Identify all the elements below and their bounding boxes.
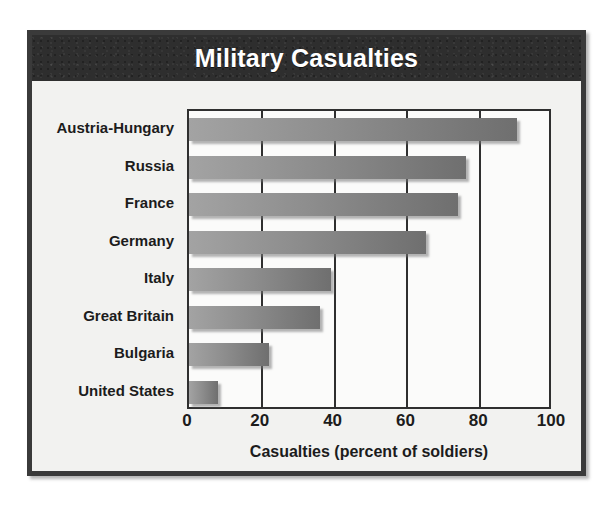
bar [189, 231, 426, 254]
bar [189, 306, 320, 329]
bar-row [189, 224, 549, 262]
x-tick-label: 40 [323, 411, 342, 431]
category-label: Russia [125, 147, 174, 185]
category-label: Austria-Hungary [56, 109, 174, 147]
bar [189, 193, 458, 216]
bar-row [189, 111, 549, 149]
x-tick-label: 80 [469, 411, 488, 431]
x-tick-label: 20 [250, 411, 269, 431]
x-tick-label: 100 [537, 411, 565, 431]
bar-row [189, 374, 549, 412]
chart-title-bar: Military Casualties [32, 35, 581, 81]
category-label: Italy [144, 259, 174, 297]
category-label: Bulgaria [114, 334, 174, 372]
plot-area [187, 109, 551, 409]
page-title: Military Casualties [195, 44, 418, 73]
category-label: Great Britain [83, 297, 174, 335]
bar [189, 156, 466, 179]
bar-row [189, 149, 549, 187]
x-tick-label: 60 [396, 411, 415, 431]
category-label: Germany [109, 222, 174, 260]
bar-row [189, 261, 549, 299]
category-label: United States [78, 372, 174, 410]
x-axis-title: Casualties (percent of soldiers) [187, 443, 551, 461]
category-axis-labels: Austria-HungaryRussiaFranceGermanyItalyG… [32, 109, 182, 409]
chart-figure: Military Casualties Austria-HungaryRussi… [27, 30, 586, 476]
x-axis-tick-labels: 020406080100 [187, 411, 551, 435]
bar [189, 381, 218, 404]
chart-body: Austria-HungaryRussiaFranceGermanyItalyG… [32, 81, 581, 471]
bar-row [189, 336, 549, 374]
category-label: France [125, 184, 174, 222]
bar [189, 343, 269, 366]
bar-row [189, 186, 549, 224]
bar-row [189, 299, 549, 337]
bars-layer [189, 111, 549, 407]
bar [189, 118, 517, 141]
bar [189, 268, 331, 291]
x-tick-label: 0 [182, 411, 191, 431]
